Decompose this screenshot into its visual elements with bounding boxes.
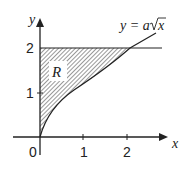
y-axis-label: y [27,12,36,27]
x-tick-label-1: 1 [80,144,88,160]
origin-label: 0 [29,144,37,160]
curve-label-prefix: y = a [118,18,150,33]
region-label: R [51,64,61,80]
y-axis-arrow-icon [36,18,44,27]
x-tick-label-2: 2 [123,144,131,160]
region-diagram: R 0 1 2 1 2 x y y = a x [0,0,186,170]
curve-label-radicand: x [157,18,165,33]
x-axis-arrow-icon [159,133,168,141]
y-tick-label-2: 2 [26,40,34,56]
x-axis-label: x [171,136,179,151]
y-tick-label-1: 1 [26,85,34,101]
